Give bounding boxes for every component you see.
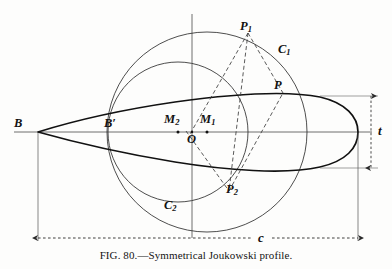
- label-B-prime: B′: [104, 117, 116, 130]
- label-B: B: [14, 117, 22, 130]
- point-m2: [177, 131, 180, 134]
- axis-lines: [14, 14, 372, 238]
- chord-dimension: [38, 133, 358, 241]
- label-M2-base: M: [164, 112, 175, 126]
- label-P1-subscript: 1: [248, 24, 252, 34]
- label-C1: C1: [278, 43, 291, 57]
- label-P: P: [274, 79, 282, 92]
- label-P2: P2: [226, 183, 238, 197]
- label-C1-subscript: 1: [286, 47, 290, 57]
- label-C2: C2: [164, 199, 177, 213]
- label-M1: M1: [200, 113, 215, 127]
- label-M2: M2: [164, 113, 179, 127]
- label-O: O: [187, 133, 196, 146]
- label-thickness-t: t: [378, 124, 382, 137]
- label-chord-c: c: [258, 231, 264, 244]
- point-m1: [206, 131, 209, 134]
- label-M1-base: M: [200, 112, 211, 126]
- figure-caption: FIG. 80.—Symmetrical Joukowski profile.: [0, 249, 392, 261]
- label-M2-subscript: 2: [175, 117, 179, 127]
- label-C2-subscript: 2: [172, 203, 176, 213]
- label-P1-base: P: [240, 19, 248, 33]
- figure-page: B B′ O M1 M2 P P1 P2 C1 C2 t c FIG. 80.—…: [0, 0, 392, 269]
- label-P1: P1: [240, 20, 252, 34]
- label-P2-subscript: 2: [234, 187, 238, 197]
- label-M1-subscript: 1: [211, 117, 215, 127]
- label-P2-base: P: [226, 182, 234, 196]
